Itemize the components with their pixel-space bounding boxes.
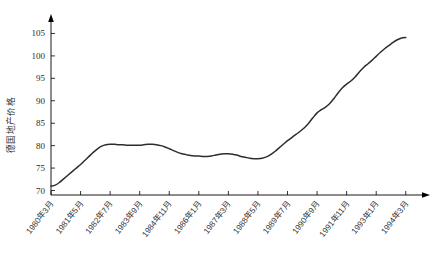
y-tick-group: 707580859095100105 (32, 28, 56, 195)
data-series-line (51, 38, 406, 187)
x-axis (51, 192, 430, 198)
x-tick-label: 1991年11月 (317, 199, 351, 239)
x-tick-label: 1988年5月 (231, 199, 263, 236)
x-tick-label: 1983年9月 (113, 199, 145, 236)
x-tick-label: 1994年3月 (379, 199, 411, 236)
x-tick-label: 1982年7月 (83, 199, 115, 236)
x-tick-label: 1987年3月 (201, 199, 233, 236)
y-tick-label: 80 (36, 141, 46, 151)
y-tick-label: 85 (36, 118, 46, 128)
y-axis-title: 德国地产价格 (5, 97, 16, 153)
chart-container: 707580859095100105 1980年3月1981年5月1982年7月… (0, 0, 440, 265)
x-tick-label: 1990年9月 (290, 199, 322, 236)
x-tick-label: 1989年7月 (260, 199, 292, 236)
y-axis-arrow-icon (48, 14, 54, 22)
x-tick-group: 1980年3月1981年5月1982年7月1983年9月1984年11月1986… (24, 191, 411, 239)
x-tick-label: 1980年3月 (24, 199, 56, 236)
y-tick-label: 100 (32, 51, 46, 61)
x-tick-label: 1986年1月 (172, 199, 204, 236)
line-chart-svg: 707580859095100105 1980年3月1981年5月1982年7月… (0, 0, 440, 265)
x-axis-arrow-icon (422, 192, 430, 198)
y-tick-label: 75 (36, 163, 46, 173)
y-tick-label: 70 (36, 186, 46, 196)
y-tick-label: 90 (36, 96, 46, 106)
x-tick-label: 1984年11月 (140, 199, 174, 239)
x-tick-label: 1981年5月 (53, 199, 85, 236)
x-tick-label: 1993年1月 (349, 199, 381, 236)
y-tick-label: 95 (36, 73, 46, 83)
y-tick-label: 105 (32, 28, 46, 38)
